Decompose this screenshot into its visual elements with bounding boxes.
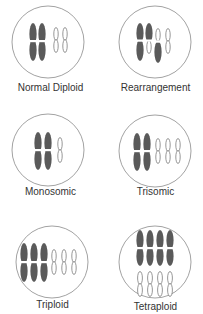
cell-circle: [119, 226, 191, 298]
panel-label: Tetraploid: [105, 301, 203, 312]
cell-circle: [12, 6, 84, 78]
panel-label: Rearrangement: [105, 82, 203, 93]
panel-triploid: Triploid: [0, 210, 101, 314]
small-chromosome: [138, 272, 173, 297]
panel-label: Triploid: [2, 299, 103, 310]
panel-trisomic: Trisomic: [101, 105, 202, 209]
panel-label: Normal Diploid: [0, 82, 101, 93]
small-chromosome: [166, 29, 170, 54]
panel-tetraploid: Tetraploid: [101, 210, 202, 314]
panel-normal-diploid: Normal Diploid: [0, 0, 101, 104]
small-chromosome: [156, 139, 180, 164]
cell-diagram-tetraploid: [101, 210, 202, 314]
panel-rearrangement: Rearrangement: [101, 0, 202, 104]
panel-monosomic: Monosomic: [0, 105, 101, 209]
small-chromosome: [58, 138, 62, 163]
panel-label: Monosomic: [0, 186, 101, 197]
cell-circle: [119, 115, 191, 187]
rearranged-chromosome-b: [154, 29, 161, 64]
panel-label: Trisomic: [105, 186, 203, 197]
small-chromosome: [54, 28, 67, 53]
rearranged-chromosome-a-lower: [147, 41, 151, 54]
small-chromosome: [52, 250, 76, 275]
